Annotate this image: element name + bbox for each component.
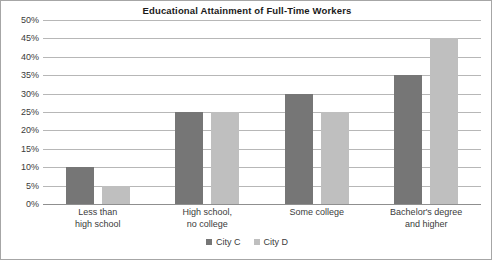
x-category-label: Bachelor's degreeand higher [372,207,482,230]
x-category-label-line: Bachelor's degree [372,207,482,219]
x-category-label-line: no college [153,219,263,231]
bar-group [372,20,482,205]
legend-label: City D [264,237,289,247]
bar [321,112,349,204]
y-tick-label-20: 20% [1,125,39,135]
bar [211,112,239,204]
plot-area [43,20,481,205]
y-tick-label-5: 5% [1,181,39,191]
y-tick-label-35: 35% [1,70,39,80]
bar-group [43,20,153,205]
legend-swatch-icon [206,239,212,245]
x-category-label-line: Some college [262,207,372,219]
y-tick-label-40: 40% [1,52,39,62]
bar-group [153,20,263,205]
x-axis: Less thanhigh schoolHigh school,no colle… [43,207,481,235]
bar-group [262,20,372,205]
x-category-label: High school,no college [153,207,263,230]
x-category-label-line: High school, [153,207,263,219]
bars-layer [43,20,481,205]
y-tick-label-0: 0% [1,199,39,209]
chart-title: Educational Attainment of Full-Time Work… [1,5,492,16]
x-category-label-line: high school [43,219,153,231]
bar [394,75,422,204]
y-tick-label-50: 50% [1,15,39,25]
bar [66,167,94,204]
chart-legend: City CCity D [1,237,492,247]
y-tick-label-30: 30% [1,89,39,99]
legend-swatch-icon [254,239,260,245]
x-category-label: Less thanhigh school [43,207,153,230]
legend-item[interactable]: City D [254,237,289,247]
bar [285,94,313,204]
bar [102,186,130,204]
y-tick-label-15: 15% [1,144,39,154]
x-category-label-line: Less than [43,207,153,219]
legend-label: City C [216,237,241,247]
x-category-label: Some college [262,207,372,219]
chart-figure: Educational Attainment of Full-Time Work… [0,0,492,260]
x-category-label-line: and higher [372,219,482,231]
y-tick-label-25: 25% [1,107,39,117]
bar [430,38,458,204]
y-tick-label-45: 45% [1,33,39,43]
y-tick-label-10: 10% [1,162,39,172]
bar [175,112,203,204]
y-axis: 0%5%10%15%20%25%30%35%40%45%50% [1,20,39,205]
legend-item[interactable]: City C [206,237,241,247]
